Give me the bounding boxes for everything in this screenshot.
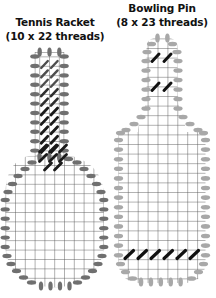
pattern-sheet: Tennis Racket (10 x 22 threads) [0,0,216,298]
pattern-panel-bowling-pin: Bowling Pin (8 x 23 threads) [108,0,216,298]
bowling-pin-diagram [108,0,216,298]
pattern-panel-tennis-racket: Tennis Racket (10 x 22 threads) [0,0,110,298]
tennis-racket-diagram [0,0,110,298]
racket-head [0,145,110,296]
racket-handle [30,47,69,162]
